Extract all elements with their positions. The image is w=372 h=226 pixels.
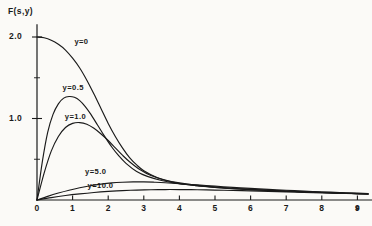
x-tick-label: 3 (141, 203, 146, 213)
x-tick-label: 7 (284, 203, 289, 213)
curve-label: y=0.5 (63, 83, 84, 92)
figure-container: F(s,y) s 01234567891.02.0y=0y=0.5y=1.0y=… (0, 0, 372, 226)
x-tick-label: 5 (213, 203, 218, 213)
x-tick-label: 9 (355, 203, 360, 213)
y-tick-label: 2.0 (9, 31, 22, 41)
x-tick-label: 1 (70, 203, 75, 213)
curve-label: y=10.0 (88, 181, 114, 190)
curve-label: y=5.0 (85, 167, 106, 176)
curve-label: y=0 (74, 37, 88, 46)
line-chart-plot (0, 0, 372, 226)
x-tick-label: 6 (248, 203, 253, 213)
curve-label: y=1.0 (65, 112, 86, 121)
y-axis-title: F(s,y) (8, 6, 33, 16)
x-tick-label: 4 (177, 203, 182, 213)
data-curve (37, 190, 368, 200)
x-tick-label: 2 (106, 203, 111, 213)
y-tick-label: 1.0 (9, 113, 22, 123)
x-tick-label: 8 (319, 203, 324, 213)
x-tick-label: 0 (35, 203, 40, 213)
